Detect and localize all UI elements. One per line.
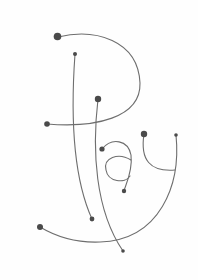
dot-y-left [141,131,147,137]
letter-y-tail [40,135,177,242]
dot-p-left [44,121,50,127]
letter-y-left [143,134,175,170]
dot-p-top [54,33,62,41]
dot-y-right [174,133,178,137]
dot-l-top [95,96,101,102]
dot-p-stem-bottom [90,217,95,222]
dot-a-start [99,146,104,151]
letter-p-bowl [47,34,140,125]
dot-p-stem-top [73,52,77,56]
letter-a-stroke [102,142,131,191]
dot-l-bottom [121,249,125,253]
letter-a-bowl [106,156,131,180]
letter-p-stem [73,54,92,219]
play-lettering-graphic [0,0,198,280]
dot-a-end [122,189,126,193]
dot-y-tail-end [37,224,43,230]
artwork-canvas: Play [0,0,198,280]
